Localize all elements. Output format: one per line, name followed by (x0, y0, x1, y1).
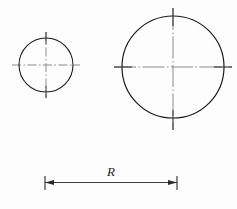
dimension-label-r: R (106, 164, 115, 179)
technical-drawing-svg: R (0, 0, 237, 209)
dimension-group: R (45, 164, 177, 190)
technical-drawing-canvas: R (0, 0, 237, 209)
dimension-arrowhead-left (45, 180, 54, 185)
dimension-arrowhead-right (168, 180, 177, 185)
large-circle-group (114, 8, 232, 130)
small-circle-group (12, 32, 80, 98)
